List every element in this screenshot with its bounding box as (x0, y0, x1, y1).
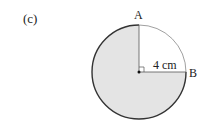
circle-diagram (0, 0, 207, 135)
unshaded-arc (139, 25, 186, 72)
center-point (138, 71, 141, 74)
